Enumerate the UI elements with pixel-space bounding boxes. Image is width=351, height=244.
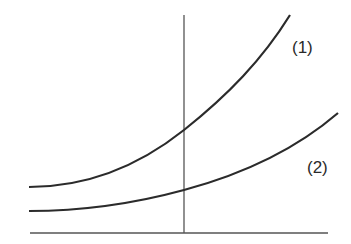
curve-1-label: (1) xyxy=(292,38,313,57)
curve-1 xyxy=(29,15,290,187)
curves-diagram: (1) (2) xyxy=(0,0,351,244)
curve-2-label: (2) xyxy=(307,158,328,177)
